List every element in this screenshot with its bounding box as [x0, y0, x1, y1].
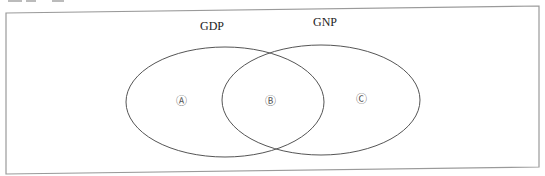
gdp-set-ellipse [126, 47, 324, 157]
gnp-title: GNP [313, 15, 337, 29]
diagram-frame [6, 6, 539, 174]
gdp-title: GDP [200, 19, 224, 33]
region-c-label: Ⓒ [356, 93, 367, 106]
region-b-label: Ⓑ [265, 95, 276, 108]
venn-diagram: GDP GNP Ⓐ Ⓑ Ⓒ [0, 0, 545, 176]
cut-off-header [8, 0, 64, 2]
gnp-set-ellipse [222, 45, 420, 155]
region-a-label: Ⓐ [176, 95, 187, 108]
